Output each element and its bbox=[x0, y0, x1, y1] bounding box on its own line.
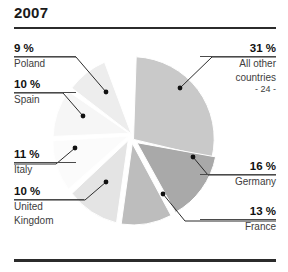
callout-united-kingdom-label-line2: Kingdom bbox=[14, 215, 84, 228]
callout-italy-value: 11 % bbox=[14, 148, 76, 161]
callout-all-other-countries-value: 31 % bbox=[200, 42, 276, 55]
callout-all-other-countries-label-line2: countries bbox=[200, 72, 276, 85]
callout-germany-value: 16 % bbox=[200, 160, 276, 173]
callout-poland-value: 9 % bbox=[14, 42, 76, 55]
callout-all-other-countries-sublabel: - 24 - bbox=[200, 84, 276, 95]
callout-italy-underline bbox=[14, 162, 76, 163]
callout-all-other-countries-underline bbox=[200, 56, 276, 57]
divider-bottom bbox=[14, 259, 276, 262]
callout-united-kingdom: 10 % United Kingdom bbox=[14, 185, 84, 227]
callout-poland-label: Poland bbox=[14, 58, 76, 71]
callout-poland-underline bbox=[14, 56, 76, 57]
callout-france-label: France bbox=[200, 221, 276, 234]
callout-spain-label: Spain bbox=[14, 94, 76, 107]
callout-spain-underline bbox=[14, 92, 76, 93]
callout-germany: 16 % Germany bbox=[200, 160, 276, 189]
callout-germany-label: Germany bbox=[200, 176, 276, 189]
pie-chart-figure: 2007 bbox=[0, 0, 288, 272]
callout-united-kingdom-label: United bbox=[14, 201, 84, 214]
callout-spain-value: 10 % bbox=[14, 78, 76, 91]
callout-france-underline bbox=[200, 219, 276, 220]
callout-germany-underline bbox=[200, 174, 276, 175]
callout-all-other-countries-label: All other bbox=[200, 58, 276, 71]
callout-all-other-countries: 31 % All other countries - 24 - bbox=[200, 42, 276, 95]
callout-united-kingdom-value: 10 % bbox=[14, 185, 84, 198]
callout-italy-label: Italy bbox=[14, 164, 76, 177]
callout-poland: 9 % Poland bbox=[14, 42, 76, 71]
callout-united-kingdom-underline bbox=[14, 199, 84, 200]
callout-france-value: 13 % bbox=[200, 205, 276, 218]
callout-spain: 10 % Spain bbox=[14, 78, 76, 107]
callout-italy: 11 % Italy bbox=[14, 148, 76, 177]
callout-france: 13 % France bbox=[200, 205, 276, 234]
